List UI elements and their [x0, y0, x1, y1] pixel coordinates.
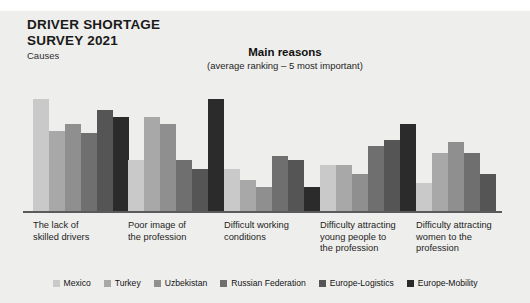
- legend-label: Mexico: [64, 278, 91, 288]
- bar[interactable]: [368, 146, 384, 212]
- bar[interactable]: [464, 153, 480, 212]
- bar-group: [416, 99, 512, 212]
- legend-label: Turkey: [115, 278, 141, 288]
- report-title-line-1: DRIVER SHORTAGE: [27, 17, 247, 33]
- bar[interactable]: [144, 117, 160, 212]
- category-label-line: Difficult working: [224, 220, 289, 232]
- legend-item[interactable]: Turkey: [104, 278, 141, 288]
- category-label-line: women to the: [416, 232, 492, 244]
- bar[interactable]: [304, 187, 320, 212]
- category-label-line: skilled drivers: [33, 232, 89, 244]
- chart-title-block: Main reasons (average ranking – 5 most i…: [160, 45, 410, 72]
- legend-label: Europe-Mobility: [418, 278, 478, 288]
- bar[interactable]: [432, 153, 448, 212]
- chart-legend: MexicoTurkeyUzbekistanRussian Federation…: [0, 278, 530, 288]
- bar[interactable]: [81, 133, 97, 212]
- bar[interactable]: [416, 183, 432, 212]
- legend-label: Uzbekistan: [165, 278, 208, 288]
- bar[interactable]: [480, 174, 496, 212]
- bar[interactable]: [288, 160, 304, 212]
- legend-item[interactable]: Europe-Logistics: [319, 278, 394, 288]
- bar[interactable]: [448, 142, 464, 212]
- chart-screenshot: DRIVER SHORTAGE SURVEY 2021 Causes Main …: [0, 0, 530, 303]
- legend-swatch-icon: [154, 280, 161, 287]
- x-axis-line: [23, 211, 502, 213]
- bar[interactable]: [97, 110, 113, 212]
- chart-subtitle: (average ranking – 5 most important): [160, 60, 410, 72]
- category-label-line: conditions: [224, 232, 289, 244]
- legend-swatch-icon: [220, 280, 227, 287]
- bar[interactable]: [352, 174, 368, 212]
- bar-group: [128, 99, 224, 212]
- bar[interactable]: [33, 99, 49, 212]
- legend-item[interactable]: Uzbekistan: [154, 278, 208, 288]
- category-label: Difficulty attractingyoung people tothe …: [320, 220, 396, 255]
- category-label-line: Difficulty attracting: [320, 220, 396, 232]
- bar[interactable]: [400, 124, 416, 212]
- legend-label: Europe-Logistics: [330, 278, 394, 288]
- bar[interactable]: [336, 165, 352, 212]
- bar[interactable]: [160, 124, 176, 212]
- category-label-line: profession: [416, 243, 492, 255]
- bar[interactable]: [240, 180, 256, 212]
- bar-group: [224, 99, 320, 212]
- category-label: Poor image ofthe profession: [128, 220, 186, 243]
- category-label-line: the profession: [128, 232, 186, 244]
- category-label-line: Poor image of: [128, 220, 186, 232]
- plot-area: [0, 90, 530, 212]
- category-label-line: The lack of: [33, 220, 89, 232]
- legend-item[interactable]: Mexico: [53, 278, 91, 288]
- bar[interactable]: [256, 187, 272, 212]
- bar-group: [320, 99, 416, 212]
- legend-item[interactable]: Russian Federation: [220, 278, 306, 288]
- bar[interactable]: [208, 99, 224, 212]
- bar[interactable]: [176, 160, 192, 212]
- bar[interactable]: [128, 160, 144, 212]
- chart-title: Main reasons: [160, 45, 410, 59]
- category-label-line: Difficulty attracting: [416, 220, 492, 232]
- legend-swatch-icon: [53, 280, 60, 287]
- category-label-line: the profession: [320, 243, 396, 255]
- bar[interactable]: [192, 169, 208, 212]
- bar[interactable]: [113, 117, 129, 212]
- x-axis-category-labels: The lack ofskilled driversPoor image oft…: [0, 220, 530, 264]
- category-label: The lack ofskilled drivers: [33, 220, 89, 243]
- bar[interactable]: [384, 140, 400, 212]
- bar-group: [33, 99, 129, 212]
- legend-swatch-icon: [319, 280, 326, 287]
- bar[interactable]: [320, 165, 336, 212]
- bar[interactable]: [224, 169, 240, 212]
- legend-label: Russian Federation: [231, 278, 306, 288]
- bar[interactable]: [272, 156, 288, 213]
- category-label: Difficulty attractingwomen to theprofess…: [416, 220, 492, 255]
- legend-swatch-icon: [407, 280, 414, 287]
- category-label: Difficult workingconditions: [224, 220, 289, 243]
- legend-item[interactable]: Europe-Mobility: [407, 278, 478, 288]
- bar[interactable]: [49, 131, 65, 212]
- bar[interactable]: [65, 124, 81, 212]
- category-label-line: young people to: [320, 232, 396, 244]
- legend-swatch-icon: [104, 280, 111, 287]
